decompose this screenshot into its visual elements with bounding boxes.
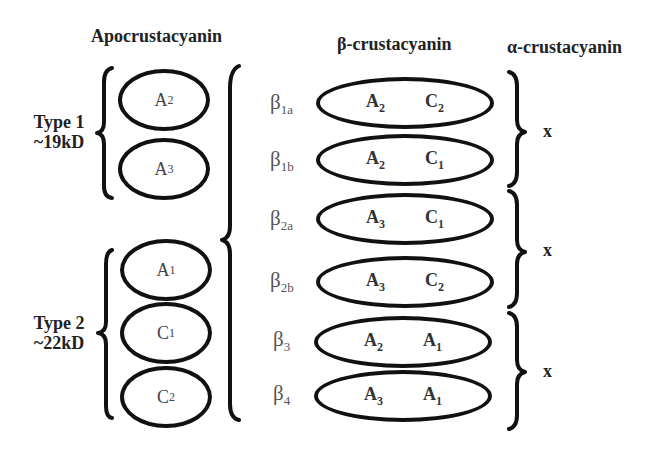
alpha-group-3-brace bbox=[0, 0, 668, 453]
alpha-multiplier: x bbox=[543, 121, 552, 142]
alpha-multiplier: x bbox=[543, 240, 552, 261]
alpha-multiplier: x bbox=[543, 361, 552, 382]
